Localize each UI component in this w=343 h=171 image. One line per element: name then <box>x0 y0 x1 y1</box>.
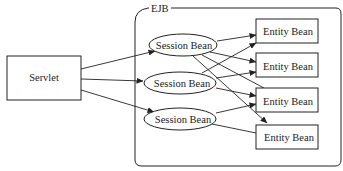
edge-servlet-s3 <box>81 90 154 112</box>
ejb-container-label: EJB <box>151 3 169 14</box>
session-bean-1: Session Bean <box>149 34 217 56</box>
servlet-box: Servlet <box>7 56 81 100</box>
ejb-architecture-diagram: EJB Servlet Session Bean Session Bean S <box>0 0 343 171</box>
session-bean-2: Session Bean <box>144 72 216 94</box>
session-bean-2-label: Session Bean <box>154 78 211 89</box>
edge-s1-e2 <box>210 52 256 62</box>
session-bean-3: Session Bean <box>144 108 216 130</box>
entity-bean-4: Entity Bean <box>256 125 318 149</box>
entity-bean-1: Entity Bean <box>256 19 318 43</box>
entity-bean-3: Entity Bean <box>256 88 318 112</box>
edge-s3-e3 <box>216 104 256 113</box>
entity-bean-2: Entity Bean <box>256 53 318 77</box>
edge-servlet-s2 <box>81 79 143 81</box>
entity-bean-1-label: Entity Bean <box>263 26 314 37</box>
servlet-label: Servlet <box>29 72 59 83</box>
edge-s3-e4 <box>212 124 256 133</box>
edge-s1-e1 <box>217 35 256 41</box>
entity-bean-2-label: Entity Bean <box>263 61 314 72</box>
entity-bean-4-label: Entity Bean <box>264 132 315 143</box>
session-bean-3-label: Session Bean <box>155 114 212 125</box>
entity-bean-3-label: Entity Bean <box>263 96 314 107</box>
edge-servlet-s1 <box>81 51 155 69</box>
session-bean-1-label: Session Bean <box>156 40 213 51</box>
